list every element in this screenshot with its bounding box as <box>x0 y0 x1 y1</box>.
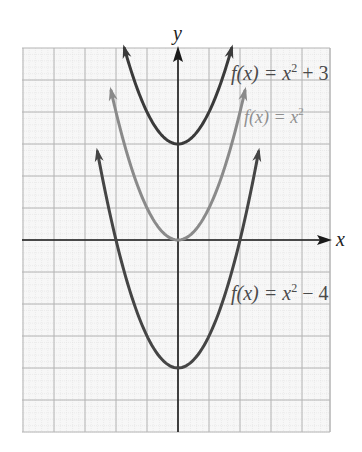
label-lhs: f(x) = x <box>231 282 291 305</box>
x-axis-label: x <box>335 228 345 250</box>
plot-area: x y f(x) = x2 + 3 f(x) = x2 f(x) = x2 − … <box>0 0 362 452</box>
label-lhs: f(x) = x <box>231 62 291 85</box>
parabola-graph: x y f(x) = x2 + 3 f(x) = x2 f(x) = x2 − … <box>0 0 362 452</box>
label-x-squared-minus-4: f(x) = x2 − 4 <box>231 281 328 305</box>
label-rhs: + 3 <box>297 62 328 84</box>
label-x-squared: f(x) = x2 <box>244 105 304 128</box>
label-lhs: f(x) = x <box>244 107 298 128</box>
label-rhs: − 4 <box>297 282 328 304</box>
label-exponent: 2 <box>298 105 304 117</box>
y-axis-label: y <box>171 22 182 45</box>
label-x-squared-plus-3: f(x) = x2 + 3 <box>231 61 328 85</box>
